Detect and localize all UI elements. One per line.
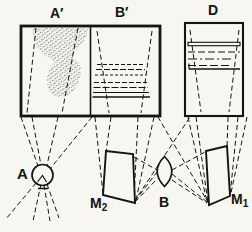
mirror-m2-shape <box>103 151 135 203</box>
lens-shape <box>157 157 172 187</box>
label-mirror-m2-base: M <box>90 195 102 211</box>
light-source-symbol <box>32 165 53 189</box>
label-source-a: A <box>17 166 28 181</box>
optical-diagram-canvas <box>0 0 252 232</box>
fringe-lines-d <box>188 42 240 69</box>
label-screen-d: D <box>208 3 218 17</box>
label-mirror-m2-sub: 2 <box>102 202 108 213</box>
speckle-pattern-blob <box>32 28 88 97</box>
label-mirror-m2: M2 <box>90 196 107 213</box>
label-lens-b: B <box>159 195 169 209</box>
label-mirror-m1-base: M <box>231 191 243 207</box>
fringe-lines-b <box>93 65 151 98</box>
label-screen-b-prime: B′ <box>115 5 128 19</box>
mirror-m1-shape <box>206 146 230 205</box>
optical-diagram-figure: A′ B′ D A M2 B M1 <box>0 0 252 232</box>
label-mirror-m1-sub: 1 <box>243 198 249 209</box>
label-mirror-m1: M1 <box>231 192 248 209</box>
label-screen-a-prime: A′ <box>50 6 63 20</box>
